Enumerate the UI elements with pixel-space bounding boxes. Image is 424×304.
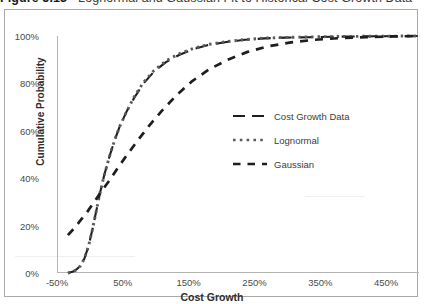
y-tick-label: 80% [0, 78, 39, 89]
figure-number: Figure 5.13 [0, 0, 67, 5]
legend-swatch-long-dash [232, 110, 268, 122]
legend-swatch-dotted [232, 134, 268, 146]
x-tick-label: 450% [358, 277, 414, 288]
figure-title: Lognormal and Gaussian Fit to Historical… [78, 0, 412, 5]
x-tick-label: 50% [95, 277, 151, 288]
x-axis-title: Cost Growth [5, 291, 419, 303]
legend-label: Lognormal [274, 135, 319, 146]
y-tick-label: 60% [0, 125, 39, 136]
legend-item-lognormal[interactable]: Lognormal [232, 128, 402, 152]
x-tick-label: 350% [292, 277, 348, 288]
legend-item-gaussian[interactable]: Gaussian [232, 152, 402, 176]
x-tick-label: 250% [227, 277, 283, 288]
chart-legend: Cost Growth Data Lognormal Gaussian [232, 104, 402, 176]
y-tick-label: 100% [0, 31, 39, 42]
x-tick-label: -50% [29, 277, 85, 288]
legend-label: Cost Growth Data [274, 111, 350, 122]
legend-label: Gaussian [274, 159, 314, 170]
y-tick-label: 40% [0, 173, 39, 184]
chart-frame: Cumulative Probability 100% 80% 60% 40% … [4, 9, 418, 297]
y-tick-label: 20% [0, 220, 39, 231]
x-tick-label: 150% [161, 277, 217, 288]
legend-item-cost-growth-data[interactable]: Cost Growth Data [232, 104, 402, 128]
legend-swatch-dash [232, 158, 268, 170]
figure-caption: Figure 5.13Lognormal and Gaussian Fit to… [0, 0, 424, 9]
